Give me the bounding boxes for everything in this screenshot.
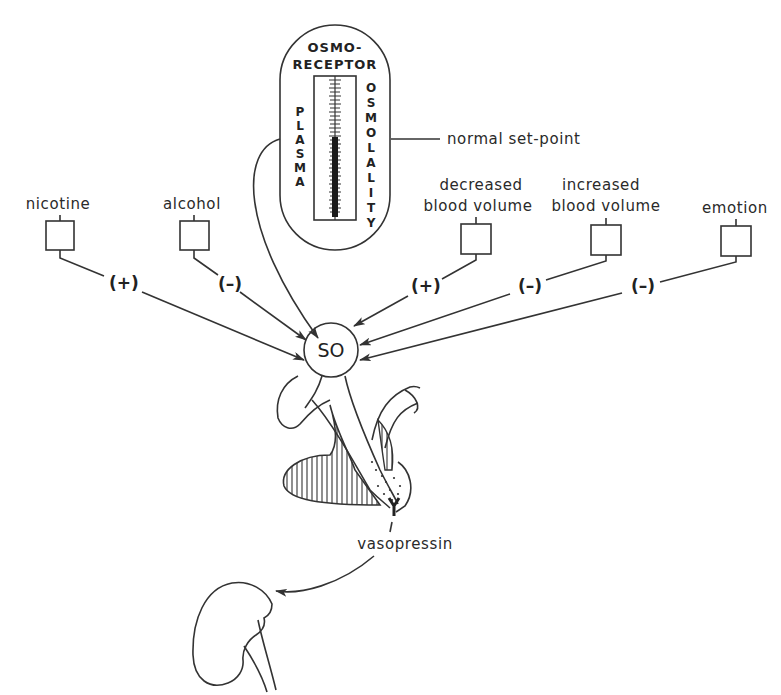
pituitary-illustration	[277, 376, 420, 532]
effect-sign: (+)	[109, 273, 139, 293]
effect-sign: (–)	[631, 276, 655, 296]
osmolality-letter: S	[367, 96, 376, 110]
vasopressin-label: vasopressin	[357, 535, 453, 553]
osmolality-letter: O	[366, 81, 376, 95]
plasma-letter: M	[294, 161, 306, 175]
input-box	[180, 221, 209, 250]
effect-sign: (–)	[218, 274, 242, 294]
input-label: alcohol	[163, 195, 221, 213]
input-label: emotion	[702, 199, 768, 217]
osmolality-letter: Y	[366, 216, 376, 230]
effect-sign: (+)	[411, 276, 441, 296]
input-label: blood volume	[551, 197, 660, 215]
input-box	[721, 226, 751, 256]
plasma-letter: L	[296, 119, 304, 133]
kidney-illustration	[193, 582, 276, 692]
input-box	[461, 224, 491, 254]
input-box	[591, 225, 621, 255]
osmolality-letter: M	[365, 111, 377, 125]
setpoint-label: normal set-point	[447, 130, 581, 148]
input-decreased-blood-volume: decreased blood volume (+)	[354, 176, 533, 326]
osmoreceptor-title-2: RECEPTOR	[293, 57, 378, 72]
osmolality-letter: T	[367, 201, 376, 215]
gauge-fill	[332, 137, 338, 217]
input-label: nicotine	[26, 195, 91, 213]
plasma-letter: P	[296, 105, 305, 119]
vasopressin-arrow	[276, 556, 374, 592]
osmoreceptor-title-1: OSMO-	[307, 40, 362, 55]
osmolality-letter: I	[369, 186, 373, 200]
release-terminal	[389, 498, 399, 516]
osmolality-letter: A	[366, 156, 376, 170]
osmolality-letter: O	[366, 126, 376, 140]
diagram-canvas: OSMO- RECEPTOR P L A S M A O S M O L A L…	[0, 0, 781, 695]
input-nicotine: nicotine (+)	[26, 195, 304, 360]
plasma-letter: S	[296, 147, 305, 161]
input-box	[46, 221, 74, 250]
plasma-letter: A	[295, 175, 305, 189]
input-label: blood volume	[423, 197, 532, 215]
input-label: decreased	[439, 176, 522, 194]
osmolality-letter: L	[367, 171, 375, 185]
so-label: SO	[317, 339, 344, 361]
so-nucleus: SO	[304, 323, 358, 377]
osmolality-letter: L	[367, 141, 375, 155]
osmoreceptor-gauge: OSMO- RECEPTOR P L A S M A O S M O L A L…	[280, 25, 390, 250]
effect-sign: (–)	[518, 276, 542, 296]
input-label: increased	[562, 176, 640, 194]
plasma-letter: A	[295, 133, 305, 147]
